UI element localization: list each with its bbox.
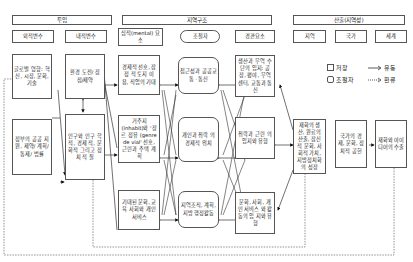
box-gov-support: 정부의 공공 지원, 제약/ 계획/통제/ 법률 — [12, 119, 52, 175]
box-settlement-type: 취락과 근린 의 입지와 유형 — [235, 117, 275, 159]
box-population: 인구와 인구 학적, 경제 적, 문화적 그리고 정치 적 질 — [65, 114, 105, 180]
box-personal-position: 개인과 취락 의 경제적 위치 — [178, 117, 219, 162]
legend-regulator: 조절자 — [327, 75, 354, 84]
box-culture-social: 문화, 사회, 개인 서비스 와 활동의 입 지와 유형 — [235, 192, 275, 234]
subheader-region: 지역 — [293, 30, 326, 43]
box-residence: 거주지 (inhabit)와 '장르 정유 (genre de vial' 선호… — [118, 115, 160, 163]
box-accessibility: 접근성과 공공교통 · 통신 — [178, 57, 219, 94]
subheader-external-vars: 외적변수 — [12, 30, 54, 43]
header-regional-structure: 지역구조 — [122, 15, 272, 25]
legend-feedback: 환류 — [368, 75, 396, 84]
regulator-rounded-square-icon — [327, 76, 334, 83]
box-global-influence: 글로벌 영향: 혁신, 시장, 문화, 기술 — [12, 54, 52, 99]
legend-flow: 유동 — [368, 63, 396, 72]
subheader-mental-elements: 심적(mental) 요소 — [118, 28, 163, 46]
box-national-economy: 국가의 경제, 문화, 정치적 공헌 — [335, 120, 367, 168]
storage-square-icon — [327, 64, 334, 71]
legend-storage: 저장 — [327, 63, 348, 72]
subheader-nation: 국가 — [335, 30, 367, 43]
box-economic-choice: 경제적 선호, 잠정 적 토지 이 용, 직업의 기대 — [118, 55, 160, 95]
box-production-location: 생산과 무역 수단의 입지: 공장, 평야, 무역 센터, 교통과 통신 — [235, 55, 275, 97]
dotted-arrow-icon — [368, 77, 382, 83]
box-wealth-production: 재화의 생 산, 원료의 산출, 잠신 적 문화, 사 회적 가치, 지방정치화… — [293, 119, 326, 174]
subheader-regulator: 조절자 — [180, 30, 220, 43]
header-output: 산출(지역성) — [293, 15, 405, 25]
subheader-internal-vars: 내적변수 — [65, 30, 107, 43]
box-env-challenge: 환경 도전/ 잠점/제약 — [65, 54, 105, 99]
subheader-landscape-elements: 경관요소 — [235, 30, 275, 43]
solid-arrow-icon — [368, 65, 382, 71]
box-expected-culture: 기대된 문화, 교육 사회와 개인 서비스 — [118, 190, 160, 230]
box-world-export: 재화와 아이 디어의 수출 — [375, 120, 407, 168]
header-input: 투입 — [12, 15, 112, 25]
box-regional-org: 지역조직, 계획, 지방 행정활동 — [178, 191, 219, 228]
subheader-world: 세계 — [375, 30, 407, 43]
